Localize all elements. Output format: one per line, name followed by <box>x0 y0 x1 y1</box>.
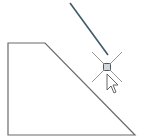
endpoint-snap-marker[interactable] <box>104 64 111 71</box>
trapezoid-shape[interactable] <box>8 43 135 135</box>
drawing-canvas[interactable] <box>0 0 143 140</box>
active-line-segment[interactable] <box>70 3 108 55</box>
